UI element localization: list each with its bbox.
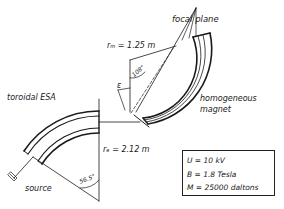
mass-spectrometer-diagram: focal plane rₘ = 1.25 m 108° ε toroidal … <box>0 0 284 209</box>
focal-plane-label: focal plane <box>172 15 219 24</box>
magnet-label: magnet <box>200 106 231 114</box>
source-slit <box>8 172 17 181</box>
parameters-box: U = 10 kV B = 1.8 Tesla M = 25000 dalton… <box>182 150 275 196</box>
source-beam-line <box>14 157 33 178</box>
parameter-mass: M = 25000 daltons <box>187 181 270 195</box>
toroidal-esa-label: toroidal ESA <box>7 94 56 102</box>
epsilon-label: ε <box>117 82 121 90</box>
dashed-axis <box>131 47 174 113</box>
parameter-voltage: U = 10 kV <box>187 154 270 168</box>
homogeneous-label: homogeneous <box>200 95 257 103</box>
source-label: source <box>25 185 52 193</box>
toroidal-esa-drawing <box>24 111 99 164</box>
esa-radius-label: rₑ = 2.12 m <box>103 146 150 154</box>
parameter-field: B = 1.8 Tesla <box>187 168 270 182</box>
magnet-radius-label: rₘ = 1.25 m <box>107 42 155 50</box>
